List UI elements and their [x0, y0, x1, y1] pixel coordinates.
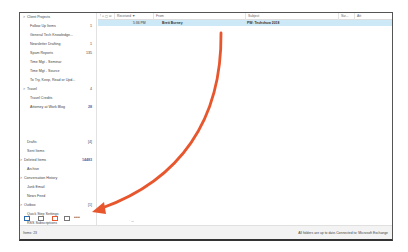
folder-label: Sent Items [27, 147, 44, 156]
attachment-column-header[interactable]: Att [354, 13, 361, 20]
flag-columns-header[interactable]: ! ⌂ ▢ ✉ [98, 13, 112, 20]
folder-label: Outbox [24, 201, 36, 210]
unread-count: 14483 [82, 156, 92, 165]
folder-label: Travel [27, 85, 37, 94]
sync-status: All folders are up to date. [298, 226, 336, 240]
unread-count: [1] [88, 201, 92, 210]
folder-item[interactable]: Time Mgt - Source [20, 67, 97, 76]
folder-label: Drafts [27, 138, 37, 147]
folder-label: Client Projects [27, 13, 50, 22]
folder-item[interactable]: Spam Reports135 [20, 49, 97, 58]
connection-status: Connected to: Microsoft Exchange [336, 226, 388, 240]
folder-label: Spam Reports [30, 49, 53, 58]
folder-label: Newsletter Drafting [30, 40, 61, 49]
chevron-right-icon[interactable]: > [23, 13, 25, 22]
chevron-right-icon[interactable]: > [20, 201, 22, 210]
from-column-header[interactable]: From [153, 13, 164, 20]
people-icon[interactable] [52, 216, 58, 221]
unread-count: 28 [88, 103, 92, 112]
message-list: ! ⌂ ▢ ✉ Received ▼ From Subject Siz... A… [98, 13, 392, 226]
item-count: Items: 23 [23, 226, 37, 240]
folder-label: Deleted Items [24, 156, 46, 165]
folder-item[interactable]: >Deleted Items14483 [20, 156, 97, 165]
subject: PW: Techshow 2018 [247, 20, 279, 26]
folder-label: Follow Up Items [30, 22, 56, 31]
folder-label: Junk Email [27, 183, 45, 192]
outlook-window: >Client ProjectsFollow Up Items1General … [19, 12, 393, 241]
folder-item[interactable]: Sent Items [20, 147, 97, 156]
folder-item[interactable]: >Conversation History [20, 174, 97, 183]
folder-pane: >Client ProjectsFollow Up Items1General … [20, 13, 97, 226]
message-row[interactable]: 5:36 PM Brett Burney PW: Techshow 2018 [98, 20, 392, 26]
folder-item[interactable]: Follow Up Items1 [20, 22, 97, 31]
folder-label: Travel Credits [30, 94, 52, 103]
tasks-icon[interactable] [64, 216, 70, 221]
unread-count: [4] [88, 138, 92, 147]
sender: Brett Burney [162, 20, 183, 26]
subject-column-header[interactable]: Subject [245, 13, 259, 20]
folder-item[interactable]: Travel Credits [20, 94, 97, 103]
folder-label: To Try, Keep, Read or Upd... [30, 76, 75, 85]
more-options-button[interactable]: ••• [74, 214, 80, 220]
mail-icon[interactable] [24, 216, 30, 221]
folder-item[interactable]: Newsletter Drafting1 [20, 40, 97, 49]
unread-count: 1 [90, 40, 92, 49]
folder-item[interactable]: Archive [20, 165, 97, 174]
folder-item[interactable]: News Feed [20, 192, 97, 201]
received-column-header[interactable]: Received ▼ [114, 13, 135, 20]
folder-label: General Tech Knowledge... [30, 31, 73, 40]
folder-item[interactable]: General Tech Knowledge... [20, 31, 97, 40]
folder-label: Time Mgt - Source [30, 67, 59, 76]
size-column-header[interactable]: Siz... [338, 13, 349, 20]
folder-label: Conversation History [24, 174, 57, 183]
folder-label: Attorney at Work Blog [30, 103, 65, 112]
chevron-right-icon[interactable]: > [20, 156, 22, 165]
chevron-right-icon[interactable]: > [20, 174, 22, 183]
folder-item[interactable]: To Try, Keep, Read or Upd... [20, 76, 97, 85]
folder-item[interactable]: >Travel4 [20, 85, 97, 94]
folder-item[interactable]: >Outbox[1] [20, 201, 97, 210]
column-header: ! ⌂ ▢ ✉ Received ▼ From Subject Siz... A… [98, 13, 392, 20]
unread-count: 135 [86, 49, 92, 58]
folder-label: Archive [27, 165, 39, 174]
chevron-right-icon[interactable]: > [23, 85, 25, 94]
folder-item[interactable]: Time Mgt - Seminar [20, 58, 97, 67]
folder-item[interactable]: >Client Projects [20, 13, 97, 22]
folder-label: Time Mgt - Seminar [30, 58, 61, 67]
unread-count: 4 [90, 85, 92, 94]
folder-item[interactable]: Junk Email [20, 183, 97, 192]
unread-count: 1 [90, 22, 92, 31]
folder-label: News Feed [27, 192, 45, 201]
scroll-indicator: ·→ [129, 218, 134, 223]
folder-item[interactable]: Drafts[4] [20, 138, 97, 147]
folder-item[interactable]: Attorney at Work Blog28 [20, 103, 97, 112]
status-bar: Items: 23 All folders are up to date. Co… [20, 225, 392, 239]
received-time: 5:36 PM [133, 20, 146, 26]
calendar-icon[interactable] [38, 216, 44, 221]
